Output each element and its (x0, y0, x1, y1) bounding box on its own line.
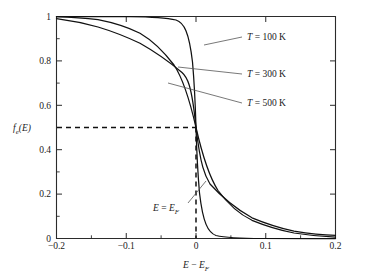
svg-text:fe(E): fe(E) (13, 123, 31, 136)
annotation-leader-lines (168, 37, 242, 203)
reference-lines (57, 128, 196, 239)
y-tick-label-2: 0.4 (39, 145, 51, 155)
x-tick-label-3: 0.1 (260, 241, 272, 251)
label-100k: T = 100 K (247, 32, 286, 42)
x-tick-labels: −0.2 −0.1 0 0.1 0.2 (48, 241, 342, 251)
y-tick-label-5: 1 (46, 12, 51, 22)
x-axis-title-minus: − (189, 260, 199, 270)
y-axis-title: fe(E) (13, 123, 31, 136)
y-tick-label-0: 0 (46, 234, 51, 244)
label-fermi-sub: F (174, 208, 180, 216)
x-axis-title: E − EF (182, 260, 210, 273)
label-300k: T = 300 K (247, 69, 286, 79)
label-300k-rest: = 300 K (252, 69, 286, 79)
x-tick-label-2: 0 (194, 241, 199, 251)
y-tick-label-4: 0.8 (39, 56, 51, 66)
y-tick-label-1: 0.2 (39, 189, 51, 199)
label-500k-rest: = 500 K (252, 98, 286, 108)
leader-100k (204, 37, 242, 45)
x-tick-label-1: −0.1 (118, 241, 135, 251)
chart-svg: −0.2 −0.1 0 0.1 0.2 0 0.2 0.4 0.6 0.8 1 … (0, 0, 365, 279)
curve-100k (57, 17, 336, 239)
leader-300k (178, 67, 242, 74)
x-tick-label-4: 0.2 (330, 241, 342, 251)
y-tick-label-3: 0.6 (39, 101, 51, 111)
label-fermi-eq: = (159, 203, 169, 213)
x-axis-title-sub: F (204, 265, 210, 273)
y-tick-labels: 0 0.2 0.4 0.6 0.8 1 (39, 12, 51, 244)
leader-fermi (188, 181, 206, 203)
svg-text:E − EF: E − EF (182, 260, 210, 273)
y-axis-title-arg: (E) (19, 123, 31, 134)
fermi-dirac-figure: −0.2 −0.1 0 0.1 0.2 0 0.2 0.4 0.6 0.8 1 … (0, 0, 365, 279)
label-100k-rest: = 100 K (252, 32, 286, 42)
series-annotations: T = 100 K T = 300 K T = 500 K E = EF (152, 32, 286, 216)
leader-500k (168, 83, 242, 103)
label-500k: T = 500 K (247, 98, 286, 108)
label-fermi-level: E = EF (152, 203, 180, 216)
